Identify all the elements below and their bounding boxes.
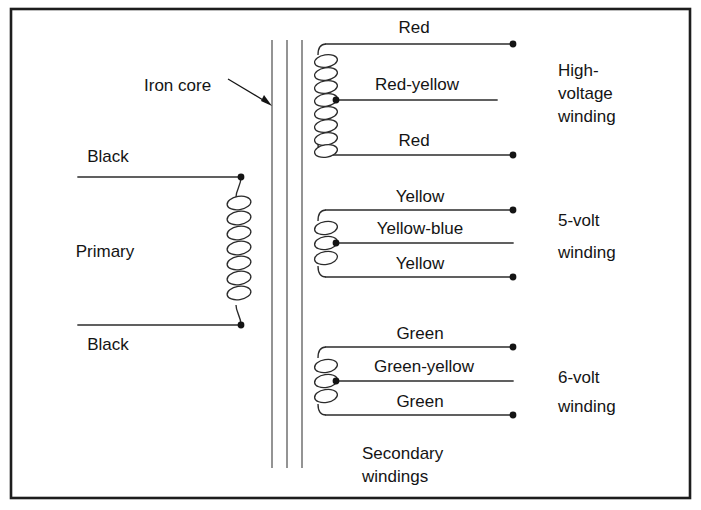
sixvolt-top-lead-label: Green bbox=[396, 324, 443, 343]
hv-center-tap-label: Red-yellow bbox=[375, 75, 460, 94]
primary-top-terminal-dot bbox=[238, 174, 245, 181]
iron-core-arrow bbox=[228, 79, 272, 106]
primary-turn-5 bbox=[226, 255, 252, 272]
primary-turn-4 bbox=[226, 240, 252, 257]
transformer-schematic-svg: Iron core Black Black bbox=[0, 0, 701, 510]
sixvolt-top-terminal-dot bbox=[510, 344, 517, 351]
primary-top-lead-label: Black bbox=[87, 147, 129, 166]
fivevolt-turn-3 bbox=[314, 250, 339, 266]
hv-turn-6 bbox=[314, 118, 339, 134]
sixvolt-turn-1 bbox=[314, 358, 339, 374]
hv-turn-2 bbox=[314, 66, 339, 82]
hv-top-coil-entry bbox=[318, 44, 326, 55]
sixvolt-bottom-coil-entry bbox=[318, 404, 326, 415]
fivevolt-turn-1 bbox=[314, 220, 339, 236]
hv-winding-label-line-1: High- bbox=[558, 61, 599, 80]
fivevolt-center-tap-dot bbox=[333, 240, 340, 247]
primary-turn-7 bbox=[226, 285, 252, 302]
hv-bottom-terminal-dot bbox=[510, 152, 517, 159]
sixvolt-winding-label-line-1: 6-volt bbox=[558, 368, 600, 387]
primary-turn-2 bbox=[226, 210, 252, 227]
fivevolt-winding-label-line-2: winding bbox=[557, 243, 616, 262]
hv-top-terminal-dot bbox=[510, 41, 517, 48]
iron-core-label: Iron core bbox=[144, 76, 211, 95]
hv-winding-label-line-3: winding bbox=[557, 107, 616, 126]
primary-coil-turns bbox=[226, 195, 252, 302]
hv-top-lead-label: Red bbox=[398, 18, 429, 37]
hv-turn-5 bbox=[314, 105, 339, 121]
hv-bottom-lead-label: Red bbox=[398, 131, 429, 150]
sixvolt-winding-label-line-2: winding bbox=[557, 397, 616, 416]
fivevolt-center-tap-label: Yellow-blue bbox=[377, 219, 463, 238]
secondary-windings-caption-line-2: windings bbox=[361, 467, 428, 486]
hv-turn-3 bbox=[314, 79, 339, 95]
hv-winding-label-line-2: voltage bbox=[558, 84, 613, 103]
primary-turn-1 bbox=[226, 195, 252, 212]
fivevolt-bottom-lead-label: Yellow bbox=[396, 254, 445, 273]
transformer-diagram: Iron core Black Black bbox=[0, 0, 701, 510]
hv-center-tap-dot bbox=[333, 97, 340, 104]
sixvolt-bottom-lead-label: Green bbox=[396, 392, 443, 411]
primary-winding-label: Primary bbox=[76, 242, 135, 261]
primary-bottom-lead-label: Black bbox=[87, 335, 129, 354]
sixvolt-top-coil-entry bbox=[318, 347, 326, 358]
hv-turn-1 bbox=[314, 53, 339, 69]
fivevolt-top-terminal-dot bbox=[510, 207, 517, 214]
fivevolt-winding-label-line-1: 5-volt bbox=[558, 211, 600, 230]
hv-coil-turns bbox=[314, 53, 339, 159]
primary-turn-3 bbox=[226, 225, 252, 242]
fivevolt-top-coil-entry bbox=[318, 210, 326, 221]
sixvolt-center-tap-label: Green-yellow bbox=[374, 357, 475, 376]
secondary-windings-caption-line-1: Secondary bbox=[362, 444, 444, 463]
primary-bottom-terminal-dot bbox=[238, 322, 245, 329]
sixvolt-turn-3 bbox=[314, 388, 339, 404]
iron-core-laminations bbox=[272, 40, 302, 468]
sixvolt-center-tap-dot bbox=[333, 378, 340, 385]
sixvolt-bottom-terminal-dot bbox=[510, 412, 517, 419]
fivevolt-top-lead-label: Yellow bbox=[396, 187, 445, 206]
fivevolt-bottom-terminal-dot bbox=[510, 274, 517, 281]
arrow-head-icon bbox=[261, 95, 272, 106]
primary-turn-6 bbox=[226, 270, 252, 287]
fivevolt-bottom-coil-entry bbox=[318, 266, 326, 277]
